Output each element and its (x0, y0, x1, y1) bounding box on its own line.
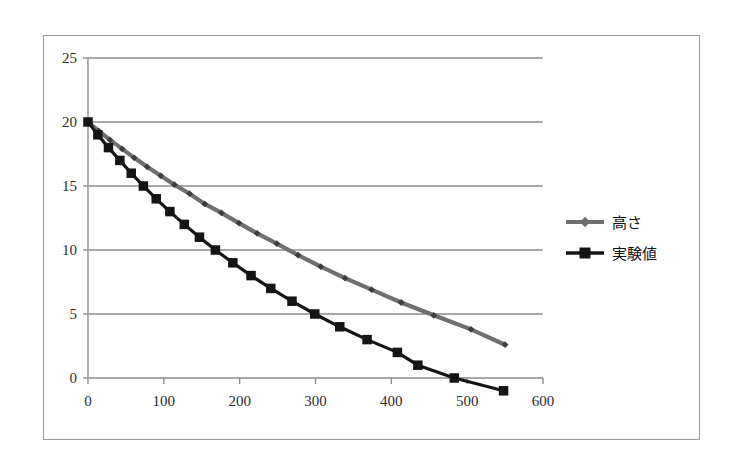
chart-canvas: 0510152025 0100200300400500600 高さ実験値 (0, 0, 739, 462)
data-point-experimental (362, 335, 372, 345)
square-marker-icon (580, 248, 591, 259)
data-point-experimental (83, 117, 93, 127)
data-point-experimental (165, 207, 175, 217)
data-point-experimental (115, 156, 125, 166)
y-axis-label-5: 5 (70, 306, 78, 322)
legend-label-experimental: 実験値 (612, 245, 657, 263)
data-point-experimental (126, 168, 136, 178)
x-axis-tick-labels: 0100200300400500600 (84, 393, 554, 409)
y-axis-label-20: 20 (62, 114, 77, 130)
data-point-experimental (228, 258, 238, 268)
data-point-experimental (93, 130, 103, 140)
y-axis-label-15: 15 (62, 178, 77, 194)
data-point-experimental (310, 309, 320, 319)
data-point-experimental (287, 296, 297, 306)
x-axis-label-400: 400 (380, 393, 403, 409)
data-point-experimental (180, 220, 190, 230)
tickmarks-group (83, 58, 543, 384)
gridlines-group (88, 58, 543, 314)
chart-legend: 高さ実験値 (566, 214, 657, 263)
data-point-experimental (393, 348, 403, 358)
series-line-experimental (88, 122, 504, 391)
x-axis-label-500: 500 (456, 393, 479, 409)
data-point-experimental (413, 360, 423, 370)
y-axis-label-25: 25 (62, 50, 77, 66)
y-axis-label-0: 0 (70, 370, 78, 386)
data-point-experimental (152, 194, 162, 204)
x-axis-label-100: 100 (153, 393, 176, 409)
data-point-experimental (499, 386, 509, 396)
data-point-experimental (195, 232, 205, 242)
data-point-experimental (104, 143, 114, 153)
data-point-experimental (211, 245, 221, 255)
data-point-experimental (335, 322, 345, 332)
data-point-experimental (246, 271, 256, 281)
data-series-group (83, 117, 508, 395)
y-axis-label-10: 10 (62, 242, 77, 258)
data-point-experimental (139, 181, 149, 191)
y-axis-tick-labels: 0510152025 (62, 50, 77, 386)
legend-label-height: 高さ (612, 214, 642, 232)
diamond-marker-icon (580, 217, 590, 227)
data-point-experimental (266, 284, 276, 294)
x-axis-label-200: 200 (228, 393, 251, 409)
data-point-experimental (450, 373, 460, 383)
x-axis-label-300: 300 (304, 393, 327, 409)
x-axis-label-600: 600 (532, 393, 555, 409)
series-line-height (88, 122, 505, 345)
x-axis-label-0: 0 (84, 393, 92, 409)
